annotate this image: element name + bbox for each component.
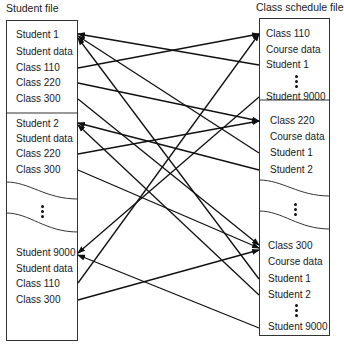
course-data-field: Course data [268,256,322,267]
ellipsis-dots-icon [295,302,298,319]
class-ref: Class 110 [16,62,60,73]
class-ref: Class 300 [16,164,60,175]
student-ref: Student 2 [268,289,311,300]
class-ref: Class 300 [16,93,60,104]
class-ref: Class 110 [16,278,60,289]
student-data-field: Student data [16,263,73,274]
student-ref: Student 1 [270,147,313,158]
ellipsis-dots-icon [294,201,297,218]
student-1-record: Student 1 [16,29,59,40]
class-220-record: Class 220 [270,115,314,126]
student-ref: Student 9000 [268,321,328,332]
ellipsis-dots-icon [41,203,44,220]
student-2-record: Student 2 [16,118,59,129]
ellipsis-dots-icon [295,73,298,90]
class-110-record: Class 110 [266,28,310,39]
class-ref: Class 300 [16,294,60,305]
class-ref: Class 220 [16,77,60,88]
student-data-field: Student data [16,46,73,57]
student-ref: Student 9000 [266,91,326,102]
class-ref: Class 220 [16,148,60,159]
student-data-field: Student data [16,133,73,144]
student-ref: Student 1 [266,59,309,70]
course-data-field: Course data [266,44,320,55]
student-ref: Student 1 [268,273,311,284]
student-ref: Student 2 [270,164,313,175]
course-data-field: Course data [270,131,324,142]
class-300-record: Class 300 [268,240,312,251]
student-9000-record: Student 9000 [16,247,76,258]
